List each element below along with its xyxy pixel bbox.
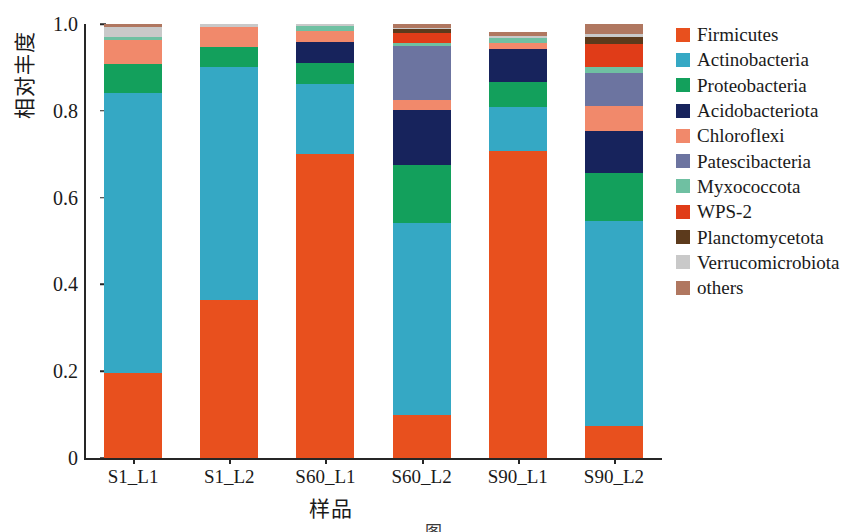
legend-label: Chloroflexi — [697, 126, 785, 145]
bar-segment[interactable] — [104, 373, 162, 458]
y-axis-tick-label: 0.8 — [22, 101, 78, 121]
bar-segment[interactable] — [104, 27, 162, 37]
bar-segment[interactable] — [489, 151, 547, 458]
legend-swatch-icon — [676, 78, 690, 92]
legend-swatch-icon — [676, 154, 690, 168]
legend-label: Patescibacteria — [697, 152, 811, 171]
x-axis-tick-mark — [614, 458, 616, 464]
x-axis-tick-label: S1_L1 — [78, 466, 188, 488]
x-axis-tick-mark — [422, 458, 424, 464]
bar-segment[interactable] — [200, 67, 258, 299]
bar-segment[interactable] — [489, 107, 547, 150]
legend-swatch-icon — [676, 255, 690, 269]
legend-label: Acidobacteriota — [697, 101, 818, 120]
legend-item[interactable]: Firmicutes — [676, 22, 864, 47]
bar-segment[interactable] — [585, 131, 643, 173]
x-axis-tick-mark — [133, 458, 135, 464]
bar-segment[interactable] — [489, 82, 547, 107]
bar-segment[interactable] — [296, 42, 354, 63]
y-axis-tick-label: 0.4 — [22, 274, 78, 294]
bar-segment[interactable] — [296, 84, 354, 154]
legend-swatch-icon — [676, 205, 690, 219]
legend-swatch-icon — [676, 53, 690, 67]
bar-segment[interactable] — [585, 106, 643, 131]
stacked-bar[interactable] — [393, 24, 451, 458]
legend-label: Proteobacteria — [697, 76, 807, 95]
figure-stacked-bar-chart: 相对丰度 00.20.40.60.81.0 样品 FirmicutesActin… — [0, 0, 866, 532]
x-axis-tick-label: S90_L2 — [559, 466, 669, 488]
legend-swatch-icon — [676, 129, 690, 143]
legend-swatch-icon — [676, 230, 690, 244]
x-axis-line — [84, 458, 662, 460]
x-axis-tick-mark — [325, 458, 327, 464]
bar-segment[interactable] — [393, 33, 451, 43]
legend-label: Planctomycetota — [697, 228, 824, 247]
bar-segment[interactable] — [393, 223, 451, 415]
bar-segment[interactable] — [296, 63, 354, 84]
legend-item[interactable]: Planctomycetota — [676, 224, 864, 249]
bar-segment[interactable] — [104, 93, 162, 373]
plot-area — [85, 24, 662, 458]
x-axis-tick-mark — [518, 458, 520, 464]
legend-swatch-icon — [676, 179, 690, 193]
bar-segment[interactable] — [585, 221, 643, 426]
legend: FirmicutesActinobacteriaProteobacteriaAc… — [676, 22, 864, 300]
bar-segment[interactable] — [296, 154, 354, 458]
x-axis-tick-label: S60_L2 — [367, 466, 477, 488]
bar-segment[interactable] — [585, 173, 643, 221]
legend-item[interactable]: Verrucomicrobiota — [676, 250, 864, 275]
legend-label: Myxococcota — [697, 177, 800, 196]
bar-segment[interactable] — [393, 46, 451, 100]
bar-segment[interactable] — [296, 31, 354, 42]
bar-segment[interactable] — [585, 426, 643, 458]
legend-swatch-icon — [676, 104, 690, 118]
legend-item[interactable]: WPS-2 — [676, 199, 864, 224]
legend-item[interactable]: Myxococcota — [676, 174, 864, 199]
bar-segment[interactable] — [104, 40, 162, 64]
x-axis-tick-mark — [229, 458, 231, 464]
legend-item[interactable]: others — [676, 275, 864, 300]
bar-segment[interactable] — [200, 300, 258, 458]
legend-item[interactable]: Acidobacteriota — [676, 98, 864, 123]
y-axis-tick-group: 00.20.40.60.81.0 — [22, 0, 78, 532]
legend-item[interactable]: Actinobacteria — [676, 47, 864, 72]
bar-segment[interactable] — [200, 47, 258, 68]
legend-label: others — [697, 278, 743, 297]
bar-segment[interactable] — [585, 24, 643, 34]
legend-swatch-icon — [676, 281, 690, 295]
x-axis-tick-label: S1_L2 — [174, 466, 284, 488]
legend-label: Firmicutes — [697, 25, 778, 44]
legend-label: Actinobacteria — [697, 50, 809, 69]
legend-item[interactable]: Patescibacteria — [676, 148, 864, 173]
bar-segment[interactable] — [585, 73, 643, 106]
bar-segment[interactable] — [393, 415, 451, 458]
y-axis-tick-label: 0.6 — [22, 188, 78, 208]
stacked-bar[interactable] — [296, 24, 354, 458]
legend-swatch-icon — [676, 28, 690, 42]
bar-segment[interactable] — [200, 27, 258, 47]
bar-segment[interactable] — [489, 49, 547, 82]
legend-item[interactable]: Chloroflexi — [676, 123, 864, 148]
y-axis-tick-label: 1.0 — [22, 14, 78, 34]
legend-label: Verrucomicrobiota — [697, 253, 839, 272]
figure-caption: 图 — [0, 518, 866, 532]
stacked-bar[interactable] — [104, 24, 162, 458]
legend-item[interactable]: Proteobacteria — [676, 73, 864, 98]
stacked-bar[interactable] — [489, 24, 547, 458]
y-axis-tick-label: 0 — [22, 448, 78, 468]
bar-segment[interactable] — [393, 100, 451, 110]
stacked-bar[interactable] — [200, 24, 258, 458]
legend-label: WPS-2 — [697, 202, 752, 221]
x-axis-tick-label: S90_L1 — [463, 466, 573, 488]
x-axis-tick-label: S60_L1 — [270, 466, 380, 488]
bar-segment[interactable] — [393, 165, 451, 223]
stacked-bar[interactable] — [585, 24, 643, 458]
y-axis-tick-label: 0.2 — [22, 361, 78, 381]
bar-segment[interactable] — [585, 37, 643, 45]
bar-segment[interactable] — [585, 44, 643, 66]
bar-segment[interactable] — [393, 110, 451, 165]
bar-segment[interactable] — [104, 64, 162, 94]
